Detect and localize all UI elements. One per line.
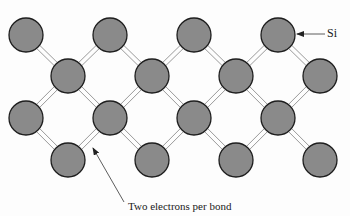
silicon-atom <box>303 143 337 177</box>
silicon-atom <box>51 143 85 177</box>
silicon-atom <box>51 59 85 93</box>
silicon-atom <box>261 18 295 52</box>
silicon-atom <box>93 101 127 135</box>
silicon-atom <box>219 143 253 177</box>
silicon-atoms <box>9 18 337 177</box>
silicon-atom <box>303 59 337 93</box>
si-atom-label: Si <box>327 26 337 41</box>
silicon-atom <box>93 18 127 52</box>
silicon-atom <box>177 101 211 135</box>
bond-label: Two electrons per bond <box>128 200 231 212</box>
silicon-atom <box>177 18 211 52</box>
silicon-atom <box>9 101 43 135</box>
silicon-atom <box>135 59 169 93</box>
bond-pointer-arrow <box>93 148 124 202</box>
silicon-atom <box>261 101 295 135</box>
lattice-graphic <box>0 0 350 216</box>
silicon-lattice-diagram: Si Two electrons per bond <box>0 0 350 216</box>
silicon-atom <box>135 143 169 177</box>
silicon-atom <box>219 59 253 93</box>
silicon-atom <box>9 18 43 52</box>
covalent-bonds <box>36 45 309 149</box>
